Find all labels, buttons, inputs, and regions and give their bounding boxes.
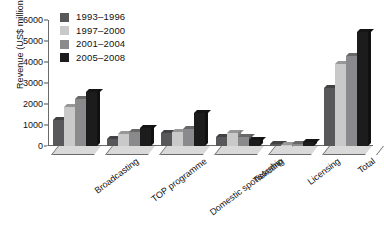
bar-group: [319, 20, 373, 146]
bar: [194, 113, 205, 146]
legend-label: 1993–1996: [76, 12, 125, 22]
bar-top-face: [249, 137, 266, 140]
bar: [118, 134, 129, 146]
y-tick-label: 3000: [23, 78, 43, 88]
bar-side-face: [314, 139, 317, 146]
y-tick-label: 4000: [23, 57, 43, 67]
bar: [161, 133, 172, 146]
bar-top-face: [194, 110, 211, 113]
bar: [107, 139, 118, 146]
x-axis-labels: BroadcastingTOP programmeDomestic sponso…: [48, 156, 373, 236]
x-tick-label: Ticketing: [251, 156, 286, 185]
chart-legend: 1993–19961997–20002001–20042005–2008: [60, 12, 125, 63]
legend-item: 1997–2000: [60, 26, 125, 36]
y-tick-label: 5000: [23, 36, 43, 46]
legend-item: 2005–2008: [60, 53, 125, 63]
bar: [64, 107, 75, 146]
x-tick-label: Broadcasting: [92, 156, 140, 196]
bar: [216, 137, 227, 146]
bar: [324, 88, 335, 146]
x-tick-label: Total: [356, 156, 377, 175]
bar-side-face: [151, 125, 154, 146]
bar-side-face: [368, 29, 371, 146]
bar: [183, 129, 194, 146]
bar-group: [156, 20, 210, 146]
bar-side-face: [260, 137, 263, 146]
bar: [238, 137, 249, 146]
bar-group: [265, 20, 319, 146]
bar: [346, 56, 357, 146]
bar-side-face: [97, 89, 100, 146]
x-tick-label: Licensing: [306, 156, 342, 187]
bar: [75, 99, 86, 146]
bar-top-face: [86, 89, 103, 92]
bar-side-face: [205, 110, 208, 146]
legend-label: 1997–2000: [76, 26, 125, 36]
bar: [129, 132, 140, 146]
legend-swatch-icon: [60, 26, 69, 35]
bar: [335, 64, 346, 146]
y-tick-label: 1000: [23, 120, 43, 130]
bar: [357, 32, 368, 146]
bar: [249, 140, 260, 146]
bar: [140, 128, 151, 146]
legend-swatch-icon: [60, 13, 69, 22]
bar: [281, 145, 292, 147]
bar: [53, 120, 64, 146]
legend-item: 2001–2004: [60, 39, 125, 49]
legend-swatch-icon: [60, 53, 69, 62]
x-tick-label: TOP programme: [149, 156, 208, 204]
bar-top-face: [303, 139, 320, 142]
bar: [303, 142, 314, 146]
legend-label: 2005–2008: [76, 53, 125, 63]
y-tick-label: 2000: [23, 99, 43, 109]
bar: [292, 144, 303, 146]
bar-top-face: [357, 29, 374, 32]
bar: [86, 92, 97, 146]
legend-item: 1993–1996: [60, 12, 125, 22]
legend-label: 2001–2004: [76, 39, 125, 49]
legend-swatch-icon: [60, 40, 69, 49]
bar-top-face: [140, 125, 157, 128]
bar: [172, 132, 183, 146]
bar: [227, 133, 238, 146]
y-tick-label: 6000: [23, 15, 43, 25]
bar-top-face: [227, 130, 244, 133]
y-tick-label: 0: [38, 141, 43, 151]
bar-group: [211, 20, 265, 146]
